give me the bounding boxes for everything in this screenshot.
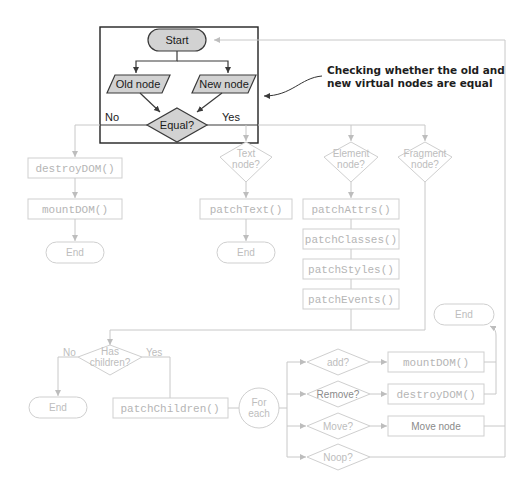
line-children-yes xyxy=(142,357,170,398)
noop-label: Noop? xyxy=(323,452,353,463)
arrow-new-equal xyxy=(197,93,222,112)
has-children-yes-label: Yes xyxy=(146,347,162,358)
mount-dom-op-label: mountDOM() xyxy=(403,357,469,369)
patch-children-step: patchChildren() xyxy=(113,398,228,418)
patch-events-step: patchEvents() xyxy=(303,289,399,309)
line-noop-loop xyxy=(370,450,505,457)
old-node-label: Old node xyxy=(116,78,161,90)
patch-attrs-label: patchAttrs() xyxy=(311,204,390,216)
equal-label: Equal? xyxy=(160,119,194,131)
patch-classes-label: patchClasses() xyxy=(305,234,397,246)
mount-dom-label: mountDOM() xyxy=(42,204,108,216)
end-label: End xyxy=(66,247,84,258)
add-label: add? xyxy=(327,357,350,368)
text-node-label-2: node? xyxy=(232,159,260,170)
patch-text-step: patchText() xyxy=(200,199,292,219)
annotation-line-1: Checking whether the old and xyxy=(327,64,505,76)
remove-label: Remove? xyxy=(317,389,360,400)
mount-dom-step: mountDOM() xyxy=(28,199,122,219)
patch-attrs-step: patchAttrs() xyxy=(303,199,399,219)
fragment-node-decision: Fragment node? xyxy=(398,142,452,182)
patch-flowchart: Start Old node New node Equal? No Yes Ch… xyxy=(0,0,529,485)
fragment-node-label-2: node? xyxy=(411,159,439,170)
patch-styles-label: patchStyles() xyxy=(308,264,394,276)
end-terminal-no: End xyxy=(46,242,104,263)
patch-text-label: patchText() xyxy=(210,204,283,216)
destroy-dom-op: destroyDOM() xyxy=(388,384,484,404)
fragment-node-label-1: Fragment xyxy=(404,148,447,159)
arrow-ops-end xyxy=(484,326,496,394)
destroy-dom-label: destroyDOM() xyxy=(35,163,114,175)
has-children-label-2: children? xyxy=(90,357,131,368)
has-children-decision: Has children? xyxy=(78,345,142,375)
end-terminal-text: End xyxy=(217,242,275,263)
patch-events-label: patchEvents() xyxy=(308,294,394,306)
mount-dom-op: mountDOM() xyxy=(388,352,484,372)
has-children-label-1: Has xyxy=(101,346,119,357)
move-node-op: Move node xyxy=(388,416,484,436)
patch-styles-step: patchStyles() xyxy=(303,259,399,279)
element-node-label-2: node? xyxy=(337,159,365,170)
element-node-label-1: Element xyxy=(333,148,370,159)
equal-decision: Equal? xyxy=(147,108,207,142)
for-each-label-1: For xyxy=(252,397,268,408)
has-children-no-label: No xyxy=(63,347,76,358)
move-label: Move? xyxy=(323,421,353,432)
start-node: Start xyxy=(148,29,206,51)
noop-decision: Noop? xyxy=(307,444,370,470)
arrow-start-new xyxy=(177,61,228,73)
arrow-old-equal xyxy=(140,93,160,112)
old-node-input: Old node xyxy=(107,75,170,93)
equal-no-label: No xyxy=(105,111,119,123)
end-terminal-ops: End xyxy=(434,304,494,325)
new-node-label: New node xyxy=(199,78,249,90)
add-decision: add? xyxy=(307,349,370,375)
start-label: Start xyxy=(165,34,188,46)
text-node-decision: Text node? xyxy=(220,142,272,182)
destroy-dom-op-label: destroyDOM() xyxy=(396,389,475,401)
end-label: End xyxy=(49,402,67,413)
move-node-op-label: Move node xyxy=(411,421,461,432)
element-node-decision: Element node? xyxy=(324,142,378,182)
annotation-line-2: new virtual nodes are equal xyxy=(327,77,492,89)
new-node-input: New node xyxy=(192,75,256,93)
remove-decision: Remove? xyxy=(307,381,370,407)
end-label: End xyxy=(237,247,255,258)
move-decision: Move? xyxy=(307,413,370,439)
for-each-loop: For each xyxy=(239,388,279,428)
equal-yes-label: Yes xyxy=(222,111,240,123)
arrow-no-destroy xyxy=(75,125,100,157)
destroy-dom-step: destroyDOM() xyxy=(28,158,122,178)
annotation-arrow xyxy=(264,76,322,96)
for-each-label-2: each xyxy=(248,408,270,419)
patch-classes-step: patchClasses() xyxy=(303,229,399,249)
patch-children-label: patchChildren() xyxy=(120,403,219,415)
arrow-start-old xyxy=(136,51,177,73)
end-terminal-children: End xyxy=(29,397,87,418)
arrow-children-no xyxy=(58,357,78,396)
text-node-label-1: Text xyxy=(237,148,256,159)
end-label: End xyxy=(455,309,473,320)
